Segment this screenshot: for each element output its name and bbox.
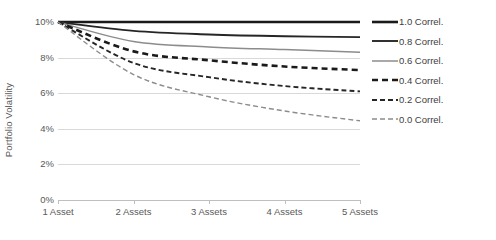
legend-item[interactable]: 0.2 Correl. [372,90,496,110]
x-tick-mark [360,200,361,204]
legend-label: 0.8 Correl. [398,36,443,47]
x-axis-tick-labels: 1 Asset2 Assets3 Assets4 Assets5 Assets [58,206,360,226]
x-tick-mark [58,200,59,204]
x-tick-mark [209,200,210,204]
x-tick-mark [134,200,135,204]
legend-line-swatch [372,95,398,105]
x-axis-tick-marks [58,0,360,240]
y-tick-label: 2% [18,159,54,169]
x-tick-label: 3 Assets [191,206,227,217]
y-tick-label: 6% [18,88,54,98]
legend-line-swatch [372,56,398,66]
volatility-diversification-chart: Portfolio Volatility 10%8%6%4%2%0% 1 Ass… [0,0,496,240]
y-axis-tick-labels: 10%8%6%4%2%0% [14,0,54,240]
y-tick-label: 4% [18,124,54,134]
x-tick-label: 1 Asset [42,206,73,217]
x-tick-label: 2 Assets [116,206,152,217]
legend-line-swatch [372,75,398,85]
legend-item[interactable]: 0.8 Correl. [372,32,496,52]
y-tick-label: 8% [18,53,54,63]
legend-item[interactable]: 0.0 Correl. [372,110,496,130]
y-tick-label: 0% [18,195,54,205]
y-tick-label: 10% [18,17,54,27]
legend-item[interactable]: 0.6 Correl. [372,51,496,71]
legend-label: 1.0 Correl. [398,16,443,27]
legend-item[interactable]: 1.0 Correl. [372,12,496,32]
x-tick-mark [285,200,286,204]
legend-line-swatch [372,114,398,124]
legend: 1.0 Correl.0.8 Correl.0.6 Correl.0.4 Cor… [372,12,496,129]
legend-label: 0.4 Correl. [398,75,443,86]
x-tick-label: 4 Assets [267,206,303,217]
x-tick-label: 5 Assets [342,206,378,217]
legend-line-swatch [372,36,398,46]
legend-label: 0.6 Correl. [398,55,443,66]
legend-label: 0.2 Correl. [398,94,443,105]
legend-line-swatch [372,17,398,27]
legend-item[interactable]: 0.4 Correl. [372,71,496,91]
legend-label: 0.0 Correl. [398,114,443,125]
